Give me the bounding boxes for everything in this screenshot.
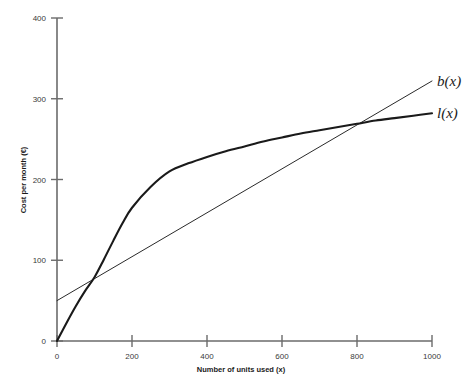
y-tick-label: 0 <box>42 337 47 346</box>
y-axis-title: Cost per month (€) <box>19 146 28 213</box>
series-label-b: b(x) <box>437 73 461 90</box>
y-tick-label: 300 <box>33 95 47 104</box>
x-axis-title: Number of units used (x) <box>197 365 286 374</box>
series-label-l: l(x) <box>437 105 458 122</box>
chart-background <box>0 0 473 386</box>
x-tick-label: 200 <box>125 352 139 361</box>
x-tick-label: 1000 <box>423 352 441 361</box>
x-tick-label: 800 <box>350 352 364 361</box>
x-tick-label: 0 <box>55 352 60 361</box>
x-tick-label: 600 <box>275 352 289 361</box>
chart-container: 0100200300400 02004006008001000 b(x) l(x… <box>0 0 473 386</box>
y-tick-label: 100 <box>33 256 47 265</box>
y-tick-label: 200 <box>33 176 47 185</box>
y-tick-label: 400 <box>33 14 47 23</box>
cost-per-month-line-chart: 0100200300400 02004006008001000 b(x) l(x… <box>0 0 473 386</box>
x-tick-label: 400 <box>200 352 214 361</box>
